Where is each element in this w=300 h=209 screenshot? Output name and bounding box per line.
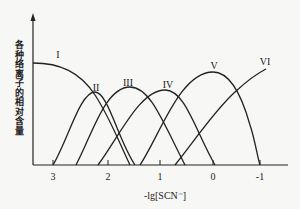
curve-label-III: III: [123, 77, 133, 88]
curve-III: [76, 87, 185, 165]
curve-label-VI: VI: [260, 56, 271, 67]
curve-label-V: V: [210, 60, 218, 71]
chart: 3 2 1 0 -1 -lg[SCN⁻] I II III IV V VI: [0, 0, 300, 209]
y-axis-label: 各种络离子的相对含量: [10, 40, 24, 135]
x-axis-label: -lg[SCN⁻]: [144, 190, 186, 201]
x-tick-label: 1: [158, 171, 163, 182]
x-tick-label: 3: [51, 171, 56, 182]
x-tick-label: 0: [211, 171, 216, 182]
axes: [31, 13, 289, 165]
y-axis-arrow-icon: [31, 13, 36, 21]
x-ticks: [53, 160, 260, 165]
curve-label-IV: IV: [163, 79, 174, 90]
x-tick-labels: 3 2 1 0 -1: [51, 171, 265, 182]
curves: [33, 63, 266, 165]
curve-I: [33, 63, 130, 165]
x-tick-label: 2: [106, 171, 111, 182]
curve-label-I: I: [56, 49, 59, 60]
curve-IV: [98, 90, 215, 165]
curve-label-II: II: [93, 82, 100, 93]
x-tick-label: -1: [256, 171, 264, 182]
